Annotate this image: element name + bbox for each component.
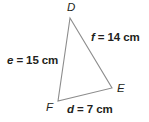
side-variable-f: f <box>91 31 95 43</box>
vertex-label-d: D <box>67 2 75 14</box>
vertex-label-f: F <box>46 102 53 114</box>
side-length-label-f: f = 14 cm <box>91 32 140 44</box>
side-value-f: = 14 cm <box>98 31 140 43</box>
side-length-label-e: e = 15 cm <box>7 55 58 67</box>
triangle-figure: D E F e = 15 cm f = 14 cm d = 7 cm <box>0 0 149 122</box>
side-variable-e: e <box>7 54 13 66</box>
side-variable-d: d <box>67 103 74 115</box>
vertex-label-e: E <box>117 83 125 95</box>
side-value-e: = 15 cm <box>16 54 58 66</box>
side-value-d: = 7 cm <box>77 103 113 115</box>
side-length-label-d: d = 7 cm <box>67 104 113 116</box>
